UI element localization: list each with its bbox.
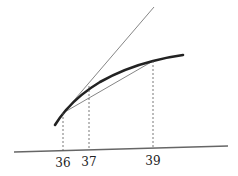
- diagram-canvas: 36 37 39: [0, 0, 238, 176]
- x-label-37: 37: [81, 155, 96, 169]
- baseline-axis: [14, 146, 228, 152]
- secant-line: [63, 61, 153, 113]
- x-label-36: 36: [55, 156, 70, 170]
- x-label-39: 39: [145, 154, 160, 168]
- tangent-line: [64, 7, 154, 112]
- curve: [55, 55, 183, 125]
